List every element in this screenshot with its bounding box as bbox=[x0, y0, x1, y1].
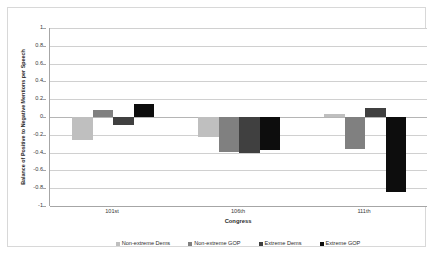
gridline bbox=[50, 188, 427, 189]
legend-item[interactable]: Extreme GOP bbox=[320, 241, 361, 247]
chart-legend: Non-extreme DemsNon-extreme GOPExtreme D… bbox=[49, 238, 427, 250]
y-axis-tick-mark bbox=[43, 46, 46, 47]
legend-swatch-icon bbox=[320, 242, 324, 246]
y-axis-tick-mark bbox=[43, 81, 46, 82]
gridline bbox=[50, 46, 427, 47]
bar bbox=[365, 108, 386, 117]
y-axis-tick-mark bbox=[43, 64, 46, 65]
gridline bbox=[50, 206, 427, 207]
bar bbox=[324, 114, 345, 117]
legend-label: Non-extreme GOP bbox=[194, 241, 240, 247]
chart-frame: 10.80.60.40.20-0.2-0.4-0.6-0.8-1 Balance… bbox=[7, 7, 426, 247]
legend-label: Non-extreme Dems bbox=[122, 241, 171, 247]
legend-label: Extreme Dems bbox=[265, 241, 302, 247]
gridline bbox=[50, 64, 427, 65]
gridline bbox=[50, 81, 427, 82]
bar bbox=[93, 110, 114, 117]
y-axis-title: Balance of Positive to Negative Mentions… bbox=[17, 28, 29, 206]
x-axis-title: Congress bbox=[49, 218, 427, 224]
legend-label: Extreme GOP bbox=[326, 241, 361, 247]
bar bbox=[198, 117, 219, 137]
bar bbox=[260, 117, 281, 150]
x-axis-tick-label: 111th bbox=[357, 208, 370, 214]
y-axis-tick-mark bbox=[43, 170, 46, 171]
bar bbox=[219, 117, 240, 152]
bar bbox=[113, 117, 134, 125]
y-axis-tick-label: -0.6 bbox=[33, 168, 43, 174]
y-axis-tick-mark bbox=[43, 28, 46, 29]
y-axis-tick-label: -0.2 bbox=[33, 132, 43, 138]
y-axis-tick-label: 0.4 bbox=[35, 79, 43, 85]
bar bbox=[386, 117, 407, 192]
y-axis-tick-label: 0.2 bbox=[35, 96, 43, 102]
plot-area bbox=[49, 28, 427, 206]
legend-swatch-icon bbox=[259, 242, 263, 246]
gridline bbox=[50, 153, 427, 154]
bar bbox=[72, 117, 93, 140]
legend-item[interactable]: Extreme Dems bbox=[259, 241, 302, 247]
y-axis-tick-mark bbox=[43, 117, 46, 118]
x-axis-tick-label: 101st bbox=[105, 208, 119, 214]
y-axis-tick-mark bbox=[43, 206, 46, 207]
legend-swatch-icon bbox=[116, 242, 120, 246]
y-axis-tick-label: -0.4 bbox=[33, 150, 43, 156]
y-axis-tick-label: 0.6 bbox=[35, 61, 43, 67]
gridline bbox=[50, 99, 427, 100]
y-axis-tick-label: -0.8 bbox=[33, 185, 43, 191]
bar bbox=[134, 104, 155, 117]
y-axis-tick-mark bbox=[43, 135, 46, 136]
y-axis-tick-mark bbox=[43, 188, 46, 189]
legend-swatch-icon bbox=[188, 242, 192, 246]
legend-item[interactable]: Non-extreme Dems bbox=[116, 241, 171, 247]
y-axis-tick-mark bbox=[43, 153, 46, 154]
y-axis-tick-label: 0.8 bbox=[35, 43, 43, 49]
gridline bbox=[50, 170, 427, 171]
legend-item[interactable]: Non-extreme GOP bbox=[188, 241, 240, 247]
gridline bbox=[50, 28, 427, 29]
chart-screenshot: 10.80.60.40.20-0.2-0.4-0.6-0.8-1 Balance… bbox=[0, 0, 434, 256]
y-axis-tick-mark bbox=[43, 99, 46, 100]
bar bbox=[345, 117, 366, 149]
x-axis-tick-label: 106th bbox=[231, 208, 245, 214]
bar bbox=[239, 117, 260, 153]
